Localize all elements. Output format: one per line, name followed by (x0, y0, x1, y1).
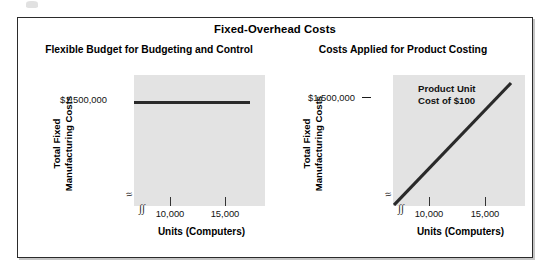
annotation-line1: Product Unit (418, 83, 476, 95)
plot-area-costs-applied: Product Unit Cost of $100 (393, 75, 525, 206)
scan-artifact (26, 1, 38, 8)
y-axis-break-icon-right: ≈ (384, 188, 392, 201)
y-tick-dash-right (362, 97, 371, 98)
x-tick-mark-15000-left (225, 197, 226, 206)
chart-panel-flexible-budget: Flexible Budget for Budgeting and Contro… (22, 44, 276, 256)
x-axis-title-right: Units (Computers) (393, 226, 528, 237)
x-tick-label-15000-left: 15,000 (211, 208, 240, 219)
x-axis-break-icon-right: ∫∫ (398, 202, 404, 214)
x-axis-break-icon-left: ∫∫ (139, 202, 145, 214)
figure-title: Fixed-Overhead Costs (18, 23, 532, 35)
y-axis-break-icon-left: ≈ (125, 188, 133, 201)
y-tick-label-right: $1,500,000 (308, 92, 371, 103)
chart-heading-costs-applied: Costs Applied for Product Costing (276, 44, 530, 55)
y-tick-value-right: $1,500,000 (308, 92, 355, 103)
x-tick-label-10000-left: 10,000 (156, 208, 185, 219)
x-axis-title-left: Units (Computers) (134, 226, 269, 237)
budgeted-fixed-overhead-line (134, 101, 250, 104)
chart-heading-flexible-budget: Flexible Budget for Budgeting and Contro… (22, 44, 276, 55)
product-unit-cost-annotation: Product Unit Cost of $100 (418, 83, 476, 107)
x-tick-mark-10000-left (170, 197, 171, 206)
x-tick-label-15000-right: 15,000 (471, 208, 500, 219)
x-tick-mark-10000-right (429, 197, 430, 206)
plot-area-flexible-budget (134, 75, 265, 206)
annotation-line2: Cost of $100 (418, 95, 476, 107)
figure-frame: Fixed-Overhead Costs Flexible Budget for… (17, 17, 533, 258)
x-tick-label-10000-right: 10,000 (415, 208, 444, 219)
chart-panel-costs-applied: Costs Applied for Product Costing Total … (276, 44, 530, 256)
x-tick-mark-15000-right (485, 197, 486, 206)
y-tick-value-left: $1,500,000 (60, 94, 107, 105)
y-tick-label-left: $1,500,000 (60, 94, 107, 105)
